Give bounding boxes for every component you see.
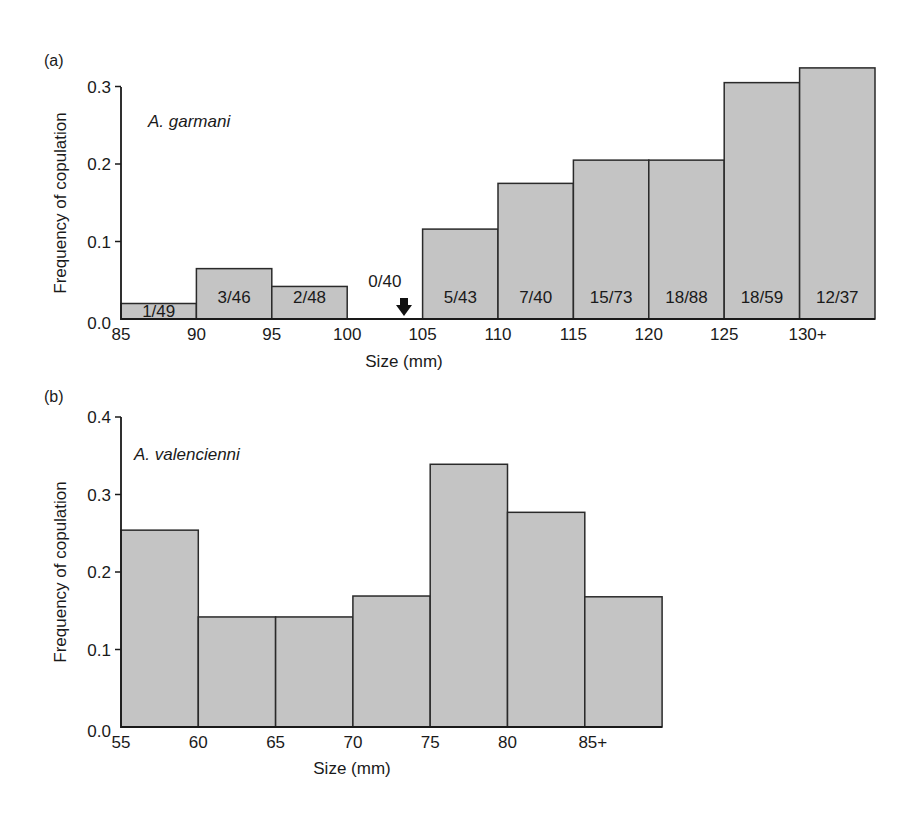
x-tick-label: 60 bbox=[189, 733, 208, 752]
y-tick-label: 0.3 bbox=[87, 78, 111, 97]
y-tick-label: 0.4 bbox=[87, 408, 111, 427]
histogram-bar bbox=[800, 68, 875, 319]
panel-b-y-axis-title: Frequency of copulation bbox=[51, 481, 70, 662]
bar-count-label: 12/37 bbox=[816, 288, 859, 307]
panel-b-bars bbox=[121, 464, 662, 727]
x-tick-label: 70 bbox=[343, 733, 362, 752]
y-tick-label: 0.3 bbox=[87, 486, 111, 505]
x-tick-label: 130+ bbox=[788, 325, 826, 344]
x-tick-label: 55 bbox=[112, 733, 131, 752]
down-arrow-icon bbox=[396, 305, 412, 316]
y-tick-label: 0.0 bbox=[87, 722, 111, 741]
x-tick-label: 125 bbox=[710, 325, 738, 344]
x-tick-label: 115 bbox=[560, 325, 587, 344]
panel-a-bars bbox=[121, 68, 875, 319]
x-tick-label: 65 bbox=[266, 733, 285, 752]
bar-count-label: 5/43 bbox=[444, 288, 477, 307]
panel-b-y-ticks: 0.00.10.20.30.4 bbox=[87, 408, 121, 741]
y-tick-label: 0.2 bbox=[87, 563, 111, 582]
x-tick-label: 105 bbox=[408, 325, 436, 344]
histogram-bar bbox=[430, 464, 507, 727]
bar-count-label: 7/40 bbox=[519, 288, 552, 307]
y-tick-label: 0.2 bbox=[87, 155, 111, 174]
panel-a-label: (a) bbox=[44, 52, 64, 69]
x-tick-label: 100 bbox=[333, 325, 361, 344]
histogram-bar bbox=[508, 512, 585, 727]
panel-a-y-ticks: 0.00.10.20.3 bbox=[87, 78, 121, 334]
bar-count-label: 2/48 bbox=[293, 288, 326, 307]
y-tick-label: 0.1 bbox=[87, 233, 111, 252]
bar-count-label: 18/59 bbox=[741, 288, 784, 307]
x-tick-label: 120 bbox=[635, 325, 663, 344]
x-tick-label: 95 bbox=[262, 325, 281, 344]
x-tick-label: 85+ bbox=[578, 733, 607, 752]
y-tick-label: 0.1 bbox=[87, 641, 111, 660]
bar-count-label: 0/40 bbox=[368, 272, 401, 291]
panel-a-garmani: (a) Frequency of copulation A. garmani 1… bbox=[44, 52, 875, 371]
x-tick-label: 80 bbox=[498, 733, 517, 752]
bar-count-label: 15/73 bbox=[590, 288, 633, 307]
panel-b-species-label: A. valencienni bbox=[133, 445, 241, 464]
histogram-bar bbox=[724, 83, 799, 319]
y-tick-label: 0.0 bbox=[87, 314, 111, 333]
bar-count-label: 3/46 bbox=[218, 288, 251, 307]
bar-count-label: 18/88 bbox=[665, 288, 708, 307]
x-tick-label: 110 bbox=[484, 325, 511, 344]
panel-a-species-label: A. garmani bbox=[147, 112, 231, 131]
panel-a-y-axis-title: Frequency of copulation bbox=[51, 112, 70, 293]
down-arrow-icon-stem bbox=[400, 298, 408, 306]
x-tick-label: 85 bbox=[112, 325, 131, 344]
histogram-bar bbox=[276, 617, 353, 727]
x-tick-label: 75 bbox=[421, 733, 440, 752]
figure: (a) Frequency of copulation A. garmani 1… bbox=[0, 0, 914, 813]
panel-b-label: (b) bbox=[44, 388, 64, 405]
panel-b-valencienni: (b) Frequency of copulation A. valencien… bbox=[44, 388, 662, 778]
panel-b-x-axis-title: Size (mm) bbox=[313, 759, 390, 778]
histogram-bar bbox=[585, 597, 662, 727]
histogram-bar bbox=[121, 530, 198, 727]
panel-b-x-ticks: 55606570758085+ bbox=[112, 733, 608, 752]
histogram-bar bbox=[198, 617, 275, 727]
x-tick-label: 90 bbox=[187, 325, 206, 344]
panel-a-x-ticks: 859095100105110115120125130+ bbox=[112, 325, 827, 344]
panel-a-x-axis-title: Size (mm) bbox=[365, 352, 442, 371]
histogram-bar bbox=[353, 596, 430, 727]
